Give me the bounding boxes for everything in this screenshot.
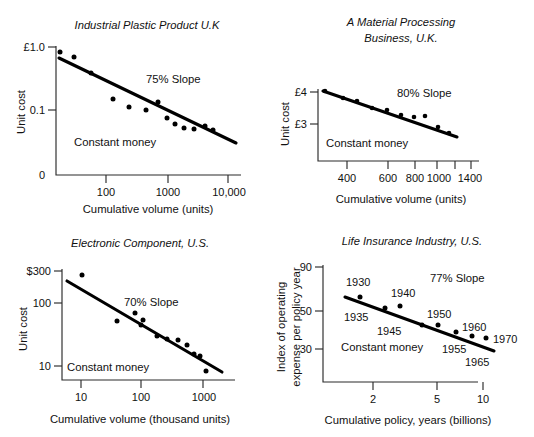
data-point <box>436 323 441 328</box>
year-label-1945: 1945 <box>377 325 401 337</box>
x-tick-label-5: 1400 <box>458 172 482 184</box>
chart-svg-2: A Material Processing Business, U.K. Uni… <box>267 0 534 218</box>
data-point <box>115 319 120 324</box>
x-tick-label-3: 800 <box>406 172 424 184</box>
y-tick-label-1: £4 <box>295 86 307 98</box>
x-tick-label-2: 1000 <box>156 186 180 198</box>
y-tick-label-2: 0.1 <box>30 104 45 116</box>
x-axis-title: Cumulative volume (units) <box>336 193 467 205</box>
data-point <box>385 108 390 113</box>
y-axis-title: Unit cost <box>17 306 29 351</box>
chart-svg-3: Electronic Component, U.S. Unit cost $30… <box>0 219 267 437</box>
x-tick-label-3: 10 <box>477 393 489 405</box>
data-point <box>412 115 417 120</box>
year-label-1960: 1960 <box>462 321 486 333</box>
data-point <box>470 334 475 339</box>
experience-curves-figure: Industrial Plastic Product U.K Unit cost… <box>0 0 534 437</box>
constant-money-annotation: Constant money <box>326 137 409 149</box>
y-tick-label-2: 50 <box>300 305 312 317</box>
year-label-1950: 1950 <box>427 308 451 320</box>
x-axis-title: Cumulative policy, years (billions) <box>325 414 492 426</box>
data-point <box>484 336 489 341</box>
axis-lines <box>56 46 241 175</box>
year-label-1940: 1940 <box>391 287 415 299</box>
chart-title: Life Insurance Industry, U.S. <box>342 235 482 247</box>
x-tick-label-2: 5 <box>434 393 440 405</box>
data-point <box>72 55 77 60</box>
y-tick-label-3: 10 <box>39 360 51 372</box>
constant-money-annotation: Constant money <box>74 136 157 148</box>
chart-title-line2: Business, U.K. <box>364 32 437 44</box>
constant-money-annotation: Constant money <box>67 361 150 373</box>
chart-title-line1: A Material Processing <box>346 16 456 28</box>
data-point <box>192 352 197 357</box>
constant-money-annotation: Constant money <box>341 341 424 353</box>
x-tick-label-1: 10 <box>75 391 87 403</box>
y-axis-title: Unit cost <box>15 89 27 134</box>
y-tick-label-1: $300 <box>27 265 51 277</box>
data-point <box>423 114 428 119</box>
y-tick-label-2: £3 <box>295 118 307 130</box>
data-point <box>204 369 209 374</box>
data-point <box>454 330 459 335</box>
y-axis-title: Unit cost <box>279 101 291 146</box>
y-tick-label-2: 100 <box>33 297 51 309</box>
data-point <box>211 128 216 133</box>
x-tick-label-3: 1000 <box>192 391 216 403</box>
x-tick-label-2: 100 <box>132 391 150 403</box>
data-point <box>165 337 170 342</box>
data-point <box>370 106 375 111</box>
slope-annotation: 80% Slope <box>397 87 452 99</box>
chart-svg-4: Life Insurance Industry, U.S. Index of o… <box>267 219 534 437</box>
year-label-1970: 1970 <box>493 333 517 345</box>
data-point <box>447 131 452 136</box>
chart-panel-life-insurance: Life Insurance Industry, U.S. Index of o… <box>267 219 534 437</box>
year-label-1955: 1955 <box>442 343 466 355</box>
year-label-1935: 1935 <box>344 311 368 323</box>
trend-line <box>67 281 222 372</box>
data-point <box>165 116 170 121</box>
chart-panel-industrial-plastic: Industrial Plastic Product U.K Unit cost… <box>0 0 267 218</box>
slope-annotation: 70% Slope <box>124 296 179 308</box>
data-point <box>355 99 360 104</box>
data-point <box>58 50 63 55</box>
chart-svg-1: Industrial Plastic Product U.K Unit cost… <box>0 0 267 218</box>
data-point <box>173 122 178 127</box>
slope-annotation: 77% Slope <box>430 272 485 284</box>
data-point <box>383 306 388 311</box>
x-tick-label-1: 2 <box>370 393 376 405</box>
data-point <box>133 311 138 316</box>
data-point <box>436 125 441 130</box>
data-point <box>176 338 181 343</box>
data-point <box>127 105 132 110</box>
data-point <box>141 318 146 323</box>
y-tick-label-3: 30 <box>300 343 312 355</box>
data-point <box>398 304 403 309</box>
data-point <box>203 124 208 129</box>
data-point <box>182 126 187 131</box>
data-point <box>198 354 203 359</box>
year-label-1965: 1965 <box>465 356 489 368</box>
chart-title: Industrial Plastic Product U.K <box>75 19 220 31</box>
chart-title: Electronic Component, U.S. <box>71 237 209 249</box>
x-tick-label-1: 100 <box>97 186 115 198</box>
data-point <box>341 96 346 101</box>
data-point <box>111 97 116 102</box>
data-point <box>420 323 425 328</box>
year-label-1930: 1930 <box>346 276 370 288</box>
data-point <box>399 113 404 118</box>
data-point <box>185 343 190 348</box>
data-point <box>80 273 85 278</box>
data-point <box>89 71 94 76</box>
y-axis-title-line1: Index of operating <box>275 282 287 372</box>
x-axis-title: Cumulative volume (units) <box>83 203 214 215</box>
x-tick-label-3: 10,000 <box>212 186 246 198</box>
data-point <box>192 127 197 132</box>
chart-panel-electronic-component: Electronic Component, U.S. Unit cost $30… <box>0 219 267 437</box>
data-point <box>155 334 160 339</box>
x-tick-label-2: 600 <box>379 172 397 184</box>
data-point <box>144 108 149 113</box>
x-tick-label-4: 1000 <box>427 172 451 184</box>
y-axis-title-line2: expense per policy year <box>290 267 302 387</box>
x-axis-title: Cumulative volume (thousand units) <box>50 413 230 425</box>
